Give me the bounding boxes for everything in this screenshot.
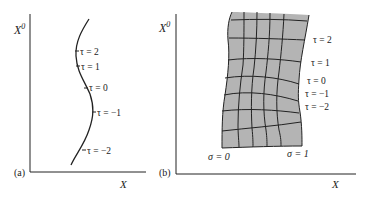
panel-b: X0 X (b) τ = 2 τ = 1 τ = 0 τ [158, 12, 356, 190]
worldline-tau-markers: τ = 2 τ = 1 τ = 0 τ = −1 τ = −2 [75, 47, 121, 156]
worldsheet-sigma-label: σ = 0 [208, 151, 230, 162]
worldline-worldsheet-figure: X0 X (a) τ = 2 τ = 1 τ = 0 τ = −1 τ = −2… [0, 0, 367, 197]
worldsheet-tau-label: τ = −1 [305, 89, 329, 99]
worldline-tau-label: τ = −2 [87, 146, 111, 156]
panel-b-tag: (b) [159, 167, 171, 179]
panel-a-time-axis-label: X0 [13, 22, 25, 37]
panel-a: X0 X (a) τ = 2 τ = 1 τ = 0 τ = −1 τ = −2 [13, 14, 146, 190]
panel-a-tag: (a) [14, 167, 25, 179]
worldsheet-tau-label: τ = −2 [305, 102, 329, 112]
worldline-tau-label: τ = −1 [97, 108, 121, 118]
worldsheet-tau-label: τ = 1 [311, 58, 330, 68]
worldsheet-sigma-label: σ = 1 [287, 148, 309, 159]
worldsheet-tau-label: τ = 0 [307, 76, 326, 86]
worldline-tau-label: τ = 0 [89, 83, 108, 93]
worldsheet-tau-label: τ = 2 [313, 35, 332, 45]
panel-b-space-axis-label: X [331, 178, 340, 190]
worldline-tau-label: τ = 2 [80, 47, 99, 57]
panel-b-time-axis-label: X0 [158, 20, 170, 35]
worldline-tau-label: τ = 1 [81, 62, 100, 72]
panel-a-space-axis-label: X [119, 178, 128, 190]
